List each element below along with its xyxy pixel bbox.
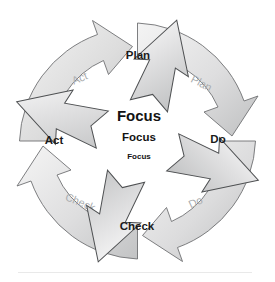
center-focus-label-small: Focus bbox=[127, 152, 151, 161]
bottom-rule bbox=[18, 272, 252, 273]
foreground-arrow-plan-label: Plan bbox=[126, 49, 150, 61]
foreground-arrow-do-label: Do bbox=[210, 133, 225, 145]
center-focus-label-medium: Focus bbox=[122, 131, 156, 143]
center-focus-label-large: Focus bbox=[117, 107, 161, 124]
cycle-diagram-svg: Plan Do Check Act Plan bbox=[0, 0, 275, 282]
foreground-arrow-check-label: Check bbox=[120, 220, 155, 232]
cycle-diagram-root: Plan Do Check Act Plan bbox=[0, 0, 275, 282]
foreground-arrow-act-label: Act bbox=[45, 134, 64, 146]
